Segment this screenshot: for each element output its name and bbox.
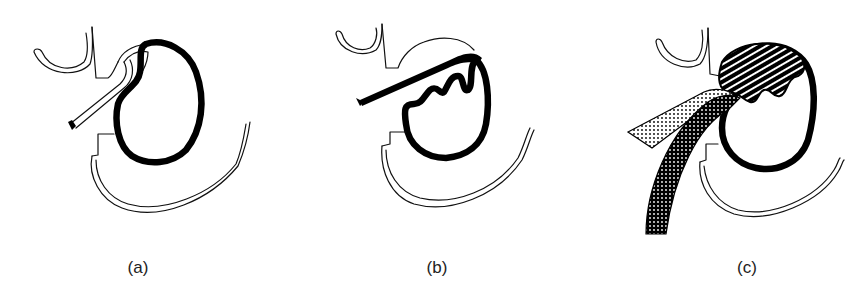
catheter-tip — [68, 120, 76, 130]
u-tube — [656, 28, 708, 67]
caption-a: (a) — [108, 258, 168, 278]
wall-line — [708, 28, 720, 76]
wall-line — [92, 27, 118, 78]
diagram-c — [580, 0, 866, 297]
diagram-b — [290, 0, 580, 297]
caption-b: (b) — [407, 258, 467, 278]
organ-a — [117, 42, 202, 162]
panel-a: (a) — [0, 0, 290, 297]
lower-step — [382, 132, 406, 146]
outer-shell — [91, 122, 250, 212]
outer-shell — [382, 128, 534, 207]
u-tube — [34, 27, 93, 73]
panel-c: (c) — [580, 0, 866, 297]
lower-step — [700, 144, 718, 162]
lower-step — [92, 134, 114, 156]
u-tube — [336, 24, 382, 53]
diagram-a — [0, 0, 290, 297]
panel-b: (b) — [290, 0, 580, 297]
caption-c: (c) — [717, 258, 777, 278]
